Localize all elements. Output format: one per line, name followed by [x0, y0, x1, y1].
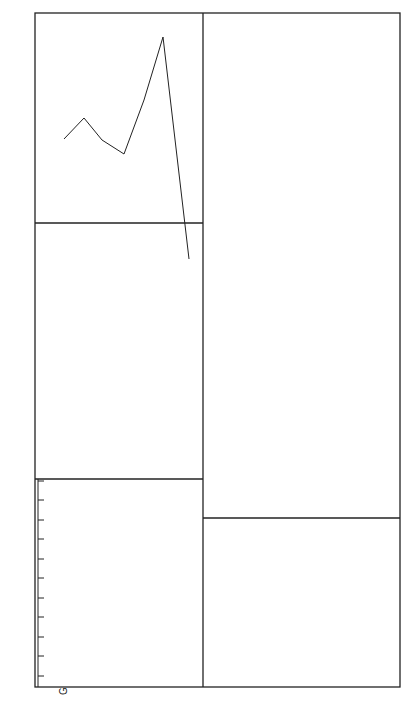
figure-stage: G: [0, 0, 413, 705]
panel-frames: [35, 13, 400, 687]
figure-svg: G: [0, 0, 413, 705]
category-axis-left: G: [58, 687, 69, 695]
svg-text:G: G: [58, 687, 69, 695]
panel-mean-length: [38, 37, 189, 687]
